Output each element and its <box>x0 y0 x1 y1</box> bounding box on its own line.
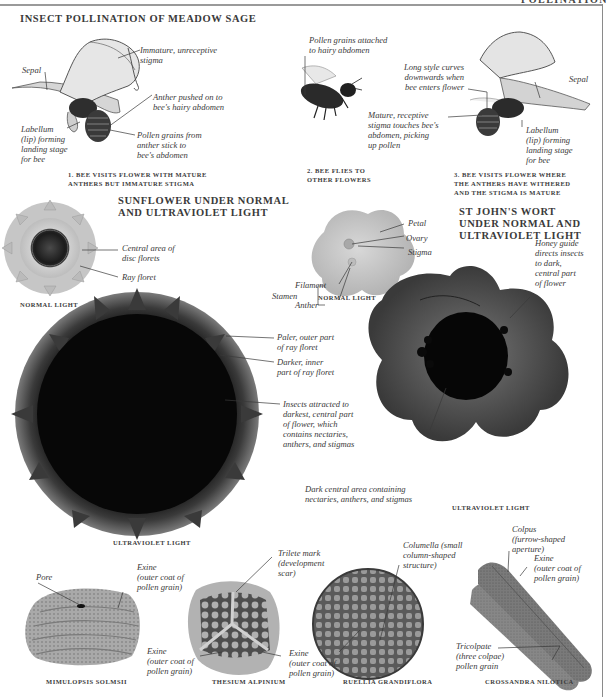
caption-line: ANTHERS BUT IMMATURE STIGMA <box>68 179 207 188</box>
bee-step2 <box>298 66 362 120</box>
label-line: (outer coat of <box>534 563 581 573</box>
caption-step2: 2. BEE FLIES TO OTHER FLOWERS <box>307 166 371 184</box>
label-line: contains nectaries, <box>283 429 354 439</box>
label-line: pollen grain) <box>289 668 336 678</box>
label-exine-thesium: Exine (outer coat of pollen grain) <box>147 646 194 676</box>
label-tricolpate: Tricolpate (three colpae) pollen grain <box>456 641 504 671</box>
label-long-style: Long style curves downwards when bee ent… <box>404 62 464 92</box>
caption-mimulopsis: MIMULOPSIS SOLMSII <box>46 677 127 686</box>
label-stigma: Stigma <box>408 247 432 257</box>
label-honey-guide: Honey guide directs insects to dark, cen… <box>535 238 584 288</box>
label-line: landing stage <box>21 144 68 154</box>
label-line: Exine <box>147 646 194 656</box>
caption-step1: 1. BEE VISITS FLOWER WITH MATURE ANTHERS… <box>68 170 207 188</box>
label-line: Labellum <box>526 125 573 135</box>
caption-line: THE ANTHERS HAVE WITHERED <box>454 179 570 188</box>
label-line: directs insects <box>535 248 584 258</box>
caption-ruellia: RUELLIA GRANDIFLORA <box>343 677 433 686</box>
caption-stjohns-normal: NORMAL LIGHT <box>318 293 376 302</box>
label-anther: Anther <box>295 300 318 310</box>
caption-sunflower-uv: ULTRAVIOLET LIGHT <box>113 538 191 547</box>
label-line: disc florets <box>122 253 175 263</box>
caption-line: AND THE STIGMA IS MATURE <box>454 188 570 197</box>
label-line: Long style curves <box>404 62 464 72</box>
sunflower-normal <box>2 200 98 296</box>
label-pore: Pore <box>36 572 52 582</box>
label-line: downwards when <box>404 72 464 82</box>
label-line: Anther pushed on to <box>153 92 224 102</box>
label-immature-stigma: Immature, unreceptive stigma <box>140 45 217 65</box>
sunflower-uv <box>11 288 263 540</box>
label-ovary: Ovary <box>406 233 427 243</box>
sunflower-section-title: SUNFLOWER UNDER NORMAL AND ULTRAVIOLET L… <box>118 195 289 219</box>
label-line: of flower <box>535 278 584 288</box>
label-line: Tricolpate <box>456 641 504 651</box>
label-line: pollen grain) <box>534 573 581 583</box>
label-labellum-1: Labellum (lip) forming landing stage for… <box>21 124 68 164</box>
label-line: to hairy abdomen <box>309 45 387 55</box>
label-line: Central area of <box>122 243 175 253</box>
label-sepal-3: Sepal <box>569 74 588 84</box>
label-line: Exine <box>534 553 581 563</box>
label-line: Pollen grains from <box>137 130 202 140</box>
label-line: Paler, outer part <box>277 332 334 342</box>
label-line: Columella (small <box>403 540 462 550</box>
label-sepal-1: Sepal <box>22 65 41 75</box>
label-mature-stigma: Mature, receptive stigma touches bee's a… <box>368 110 439 150</box>
label-line: landing stage <box>526 145 573 155</box>
stjohns-uv <box>368 266 568 441</box>
label-exine-ruellia: Exine (outer coat of pollen grain) <box>289 648 336 678</box>
label-line: Mature, receptive <box>368 110 439 120</box>
label-paler-outer: Paler, outer part of ray floret <box>277 332 334 352</box>
label-line: part of ray floret <box>277 367 334 377</box>
label-line: Trilete mark <box>278 548 324 558</box>
label-line: (development <box>278 558 324 568</box>
label-line: bee enters flower <box>404 82 464 92</box>
label-line: Dark central area containing <box>305 484 412 494</box>
label-line: pollen grain) <box>137 582 184 592</box>
label-line: Exine <box>289 648 336 658</box>
label-line: (outer coat of <box>289 658 336 668</box>
label-line: bee's abdomen <box>137 150 202 160</box>
caption-sunflower-normal: NORMAL LIGHT <box>20 300 78 309</box>
label-line: (lip) forming <box>21 134 68 144</box>
label-line: Labellum <box>21 124 68 134</box>
label-central-disc: Central area of disc florets <box>122 243 175 263</box>
label-line: Darker, inner <box>277 357 334 367</box>
label-line: darkest, central part <box>283 409 354 419</box>
label-line: pollen grain) <box>147 666 194 676</box>
label-exine-crossandra: Exine (outer coat of pollen grain) <box>534 553 581 583</box>
label-line: (three colpae) <box>456 651 504 661</box>
label-line: abdomen, picking <box>368 130 439 140</box>
label-line: (outer coat of <box>137 572 184 582</box>
caption-crossandra: CROSSANDRA NILOTICA <box>485 677 574 686</box>
label-line: (outer coat of <box>147 656 194 666</box>
label-line: bee's hairy abdomen <box>153 102 224 112</box>
label-line: (lip) forming <box>526 135 573 145</box>
sunflower-title-line: SUNFLOWER UNDER NORMAL <box>118 195 289 207</box>
label-line: Colpus <box>512 524 565 534</box>
caption-line: OTHER FLOWERS <box>307 175 371 184</box>
label-line: central part <box>535 268 584 278</box>
label-line: of flower, which <box>283 419 354 429</box>
label-stamen: Stamen <box>272 291 297 301</box>
caption-stjohns-uv: ULTRAVIOLET LIGHT <box>452 503 530 512</box>
label-columella: Columella (small column-shaped structure… <box>403 540 462 570</box>
label-line: stigma <box>140 55 217 65</box>
label-line: anther stick to <box>137 140 202 150</box>
label-trilete-mark: Trilete mark (development scar) <box>278 548 324 578</box>
caption-step3: 3. BEE VISITS FLOWER WHERE THE ANTHERS H… <box>454 170 570 197</box>
label-line: (furrow-shaped <box>512 534 565 544</box>
sage-flower-step3 <box>470 32 590 136</box>
label-line: stigma touches bee's <box>368 120 439 130</box>
label-line: of ray floret <box>277 342 334 352</box>
label-pollen-from-anther: Pollen grains from anther stick to bee's… <box>137 130 202 160</box>
sunflower-title-line: AND ULTRAVIOLET LIGHT <box>118 207 289 219</box>
label-line: Honey guide <box>535 238 584 248</box>
label-filament: Filament <box>295 280 326 290</box>
label-line: structure) <box>403 560 462 570</box>
label-colpus: Colpus (furrow-shaped aperture) <box>512 524 565 554</box>
label-exine-mimulopsis: Exine (outer coat of pollen grain) <box>137 562 184 592</box>
label-anther-pushed: Anther pushed on to bee's hairy abdomen <box>153 92 224 112</box>
label-line: column-shaped <box>403 550 462 560</box>
